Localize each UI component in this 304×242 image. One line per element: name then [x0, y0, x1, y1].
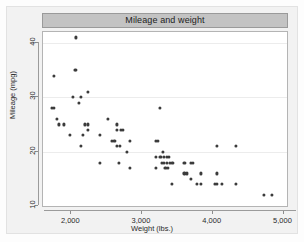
y-axis-line	[38, 42, 39, 205]
data-point	[98, 134, 101, 137]
data-point	[62, 123, 65, 126]
x-axis-tick	[283, 211, 284, 214]
data-point	[220, 183, 223, 186]
data-point	[71, 96, 74, 99]
data-point	[68, 134, 71, 137]
data-point	[262, 194, 265, 197]
data-point	[158, 107, 161, 110]
data-point	[199, 172, 202, 175]
data-point	[191, 161, 194, 164]
data-point	[161, 150, 164, 153]
y-axis-title: Mileage (mpg)	[8, 71, 17, 119]
data-point	[87, 128, 90, 131]
data-point	[199, 183, 202, 186]
data-point	[167, 156, 170, 159]
plot-area	[42, 31, 288, 207]
data-point	[79, 145, 82, 148]
x-axis-line	[44, 210, 296, 211]
data-point	[119, 145, 122, 148]
data-point	[128, 166, 131, 169]
data-point	[78, 101, 81, 104]
data-point	[189, 177, 192, 180]
data-point	[121, 128, 124, 131]
data-point	[186, 172, 189, 175]
data-point	[215, 172, 218, 175]
data-point	[215, 183, 218, 186]
data-point	[157, 139, 160, 142]
chart-title: Mileage and weight	[125, 16, 204, 25]
x-axis-tick	[70, 211, 71, 214]
data-point	[75, 69, 78, 72]
data-point	[271, 194, 274, 197]
data-point	[56, 117, 59, 120]
y-axis-tick-label: 30	[28, 88, 37, 104]
x-axis-tick	[212, 211, 213, 214]
gridline	[43, 43, 287, 44]
data-point	[171, 161, 174, 164]
data-point	[75, 36, 78, 39]
data-point	[107, 117, 110, 120]
data-point	[126, 150, 129, 153]
data-point	[113, 139, 116, 142]
data-point	[154, 166, 157, 169]
gridline	[43, 152, 287, 153]
data-point	[215, 145, 218, 148]
chart-title-bar: Mileage and weight	[42, 13, 288, 28]
data-point	[167, 166, 170, 169]
x-axis-tick	[141, 211, 142, 214]
stata-scatter-figure: Mileage and weight 10203040 2,0003,0004,…	[0, 0, 304, 242]
y-axis-tick-label: 20	[28, 142, 37, 158]
data-point	[117, 161, 120, 164]
data-point	[86, 90, 89, 93]
data-point	[235, 145, 238, 148]
data-point	[79, 96, 82, 99]
data-point	[86, 123, 89, 126]
data-point	[155, 156, 158, 159]
data-point	[115, 123, 118, 126]
y-axis-tick-label: 10	[28, 197, 37, 213]
data-point	[235, 183, 238, 186]
data-point	[98, 161, 101, 164]
gridline	[43, 206, 287, 207]
data-point	[53, 74, 56, 77]
data-point	[183, 161, 186, 164]
data-point	[170, 183, 173, 186]
data-point	[81, 134, 84, 137]
data-point	[53, 107, 56, 110]
x-axis-title: Weight (lbs.)	[0, 224, 304, 233]
data-point	[128, 139, 131, 142]
data-point	[58, 123, 61, 126]
y-axis-tick-label: 40	[28, 33, 37, 49]
